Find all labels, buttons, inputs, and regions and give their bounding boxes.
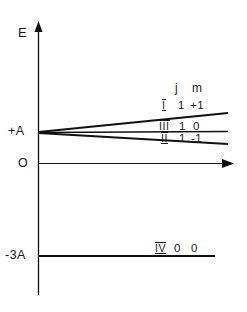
legend-header-m: m <box>192 82 202 94</box>
y-tick-label-plus-a: +A <box>8 125 25 137</box>
level-m-III: 0 <box>193 120 200 132</box>
level-roman-IV: IV <box>155 242 166 254</box>
level-m-I: +1 <box>190 99 204 111</box>
level-row-II: II <box>161 132 168 144</box>
x-axis-arrowhead <box>222 159 234 168</box>
level-j-III: 1 <box>179 120 186 132</box>
level-j-I: 1 <box>178 99 185 111</box>
level-row-III: III <box>159 120 170 132</box>
y-tick-label-origin: O <box>18 157 28 169</box>
energy-level-diagram: E +A O -3A j m I 1 +1 III 1 0 II 1 -1 IV… <box>0 0 247 312</box>
y-axis-arrowhead <box>35 21 43 32</box>
level-j-II: 1 <box>179 132 186 144</box>
y-tick-label-minus-3a: -3A <box>5 249 26 261</box>
level-row-IV: IV <box>155 242 166 254</box>
level-m-II: -1 <box>191 132 202 144</box>
level-roman-II: II <box>161 132 168 144</box>
level-j-IV: 0 <box>174 242 181 254</box>
level-row-I: I <box>162 99 166 111</box>
level-roman-I: I <box>162 99 166 111</box>
level-m-IV: 0 <box>191 242 198 254</box>
legend-header-j: j <box>175 82 178 94</box>
diagram-canvas <box>0 0 247 312</box>
level-roman-III: III <box>159 120 170 132</box>
y-axis-label: E <box>18 27 27 39</box>
